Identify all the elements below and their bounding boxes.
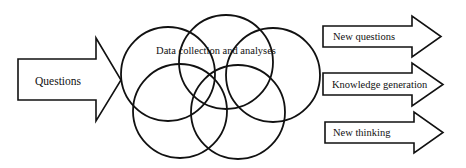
circle-4: [133, 64, 227, 158]
output-arrow-label: New thinking: [333, 127, 391, 138]
output-arrow-label: New questions: [333, 31, 395, 42]
output-arrow-new-thinking: New thinking: [325, 112, 443, 153]
circle-2: [179, 15, 273, 109]
output-arrow-new-questions: New questions: [323, 16, 441, 57]
output-arrow-label: Knowledge generation: [332, 79, 428, 90]
center-label: Data collection and analyses: [156, 45, 276, 56]
circle-5: [191, 65, 285, 159]
input-arrow-questions: Questions: [18, 38, 121, 121]
output-arrow-knowledge-generation: Knowledge generation: [323, 63, 443, 106]
circle-3: [226, 28, 320, 122]
circle-1: [121, 27, 215, 121]
research-cycle-diagram: Questions Data collection and analyses N…: [0, 0, 466, 168]
overlapping-circles: [121, 15, 320, 159]
input-arrow-label: Questions: [35, 75, 82, 87]
